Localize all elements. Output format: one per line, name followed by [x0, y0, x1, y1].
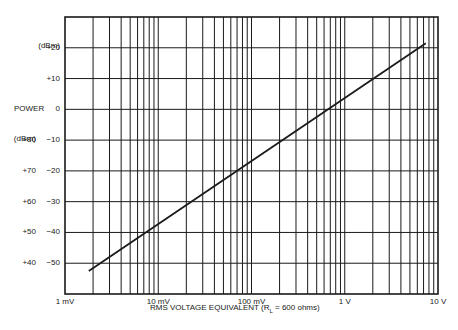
y-tick-label-dbrn: +70: [0, 166, 36, 175]
y-tick-label-dbrn: +80: [0, 135, 36, 144]
y-tick-label-dbm: +10: [0, 74, 60, 83]
x-tick-label: 1 V: [339, 297, 351, 306]
y-tick-label-dbrn: +50: [0, 227, 36, 236]
x-tick-label: 1 mV: [56, 297, 75, 306]
y-tick-label-dbm: +20: [0, 43, 60, 52]
x-axis-label-suffix: = 600 ohms): [273, 303, 320, 312]
y-tick-label-dbm: 0: [0, 104, 60, 113]
x-axis-label-text: RMS VOLTAGE EQUIVALENT (R: [150, 303, 269, 312]
chart-plot: [0, 0, 458, 330]
x-tick-label: 10 V: [430, 297, 446, 306]
x-axis-label: RMS VOLTAGE EQUIVALENT (RL = 600 ohms): [150, 303, 320, 314]
y-tick-label-dbrn: +60: [0, 197, 36, 206]
data-line: [89, 43, 426, 271]
y-tick-label-dbrn: +40: [0, 258, 36, 267]
